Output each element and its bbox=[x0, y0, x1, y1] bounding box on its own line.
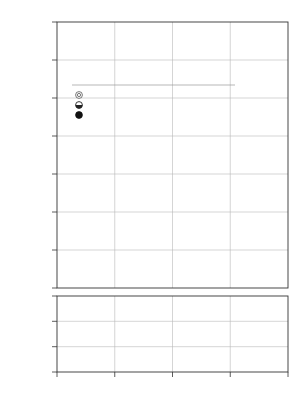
figure-svg bbox=[0, 0, 296, 416]
filled-circle-icon bbox=[76, 112, 83, 119]
half-circle-icon bbox=[76, 102, 83, 109]
legend-row-1 bbox=[76, 92, 83, 99]
legend-row-2 bbox=[76, 102, 83, 109]
legend-row-3 bbox=[76, 112, 83, 119]
permeability-hydration-figure bbox=[0, 0, 296, 416]
double-circle-icon bbox=[76, 92, 83, 99]
figure-background bbox=[0, 0, 296, 416]
